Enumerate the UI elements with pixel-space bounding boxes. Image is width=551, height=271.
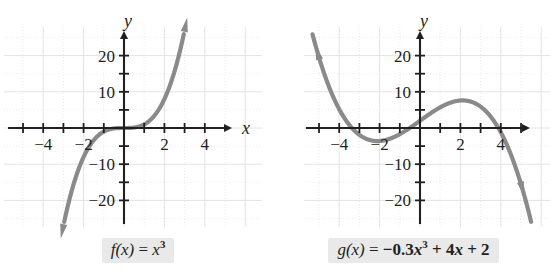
caption-right-var-x: x	[454, 240, 463, 259]
caption-right-coef: −0.3	[383, 240, 414, 259]
caption-right-inner: g(x) = −0.3x3 + 4x + 2	[328, 238, 498, 263]
y-axis-label: y	[418, 11, 428, 31]
caption-right-equals: =	[369, 240, 379, 259]
caption-left: f(x) = x3	[0, 238, 276, 263]
caption-left-exponent: 3	[160, 238, 165, 250]
caption-left-inner: f(x) = x3	[102, 238, 175, 263]
caption-right-exponent: 3	[422, 238, 427, 250]
x-tick-label-2: 2	[456, 135, 465, 154]
y-tick-label--10: −10	[384, 155, 411, 174]
caption-left-arg: (x)	[115, 240, 134, 259]
panel-right-gx: 24−4−21020−10−20y g(x) = −0.3x3 + 4x + 2	[276, 0, 551, 271]
x-tick-label-4: 4	[201, 135, 210, 154]
y-axis-label: y	[122, 11, 132, 31]
y-tick-label-10: 10	[98, 83, 115, 102]
x-tick-label--4: −4	[330, 135, 349, 154]
y-tick-label--20: −20	[384, 191, 411, 210]
y-tick-label-20: 20	[394, 47, 411, 66]
y-tick-label--20: −20	[88, 191, 115, 210]
x-tick-label-2: 2	[160, 135, 169, 154]
caption-right: g(x) = −0.3x3 + 4x + 2	[276, 238, 551, 263]
x-tick-label--2: −2	[75, 135, 93, 154]
caption-left-equals: =	[139, 240, 149, 259]
caption-left-term-x: x	[152, 240, 160, 259]
y-tick-label-10: 10	[394, 83, 411, 102]
caption-right-arg: (x)	[346, 240, 365, 259]
y-tick-label--10: −10	[88, 155, 115, 174]
plot-left: 24−4−21020−10−20yx	[0, 0, 276, 240]
caption-right-const: + 2	[467, 240, 489, 259]
caption-right-fn: g	[337, 240, 346, 259]
figure-two-cubic-graphs: 24−4−21020−10−20yx f(x) = x3 24−4−21020−…	[0, 0, 551, 271]
panel-left-fx: 24−4−21020−10−20yx f(x) = x3	[0, 0, 276, 271]
x-tick-label--2: −2	[371, 135, 389, 154]
x-tick-label-4: 4	[497, 135, 506, 154]
x-axis-label: x	[241, 118, 250, 138]
caption-right-term-4x: + 4	[432, 240, 454, 259]
y-tick-label-20: 20	[98, 47, 115, 66]
plot-right: 24−4−21020−10−20y	[276, 0, 551, 240]
x-tick-label--4: −4	[34, 135, 53, 154]
